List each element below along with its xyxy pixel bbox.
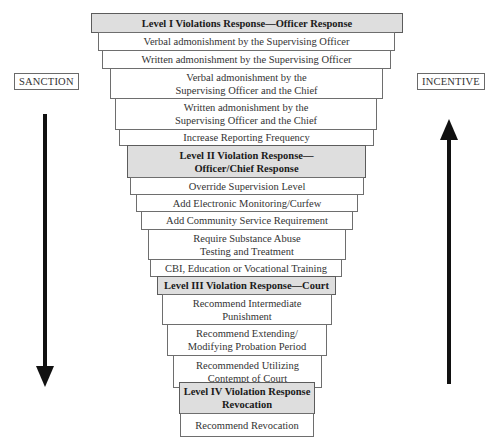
level-1-header: Level I Violations Response—Officer Resp…: [91, 13, 403, 33]
response-item-label: Add Community Service Requirement: [166, 214, 328, 227]
response-item-label: Written admonishment by the: [184, 101, 309, 114]
response-item-label: Supervising Officer and the Chief: [175, 84, 317, 97]
level-1-title: Level I Violations Response—Officer Resp…: [142, 17, 352, 30]
response-item-revocation: Recommend Revocation: [180, 413, 314, 437]
response-item-label: Recommended Utilizing: [196, 359, 299, 372]
level-2-subtitle: Officer/Chief Response: [194, 162, 298, 175]
response-item-reporting-frequency: Increase Reporting Frequency: [119, 129, 374, 146]
response-item-label: Require Substance Abuse: [193, 232, 300, 245]
level-4-title: Level IV Violation Response: [184, 385, 311, 398]
response-item-label: Verbal admonishment by the: [186, 71, 306, 84]
level-4-subtitle: Revocation: [222, 398, 272, 411]
response-item-label: Testing and Treatment: [200, 245, 294, 258]
response-item-label: Verbal admonishment by the Supervising O…: [144, 35, 350, 48]
arrow-shaft: [43, 114, 47, 368]
sanction-label: SANCTION: [14, 73, 79, 90]
response-item-substance-abuse: Require Substance Abuse Testing and Trea…: [148, 229, 346, 260]
response-item-label: Recommend Intermediate: [193, 297, 302, 310]
response-item-intermediate-punishment: Recommend Intermediate Punishment: [162, 294, 332, 325]
incentive-label: INCENTIVE: [417, 73, 485, 90]
response-item-label: Add Electronic Monitoring/Curfew: [173, 197, 322, 210]
level-4-header: Level IV Violation Response Revocation: [179, 382, 315, 414]
response-item-label: Punishment: [222, 310, 272, 323]
response-item-written-chief: Written admonishment by the Supervising …: [115, 98, 377, 130]
response-item-label: Written admonishment by the Supervising …: [141, 53, 351, 66]
response-item-verbal-officer: Verbal admonishment by the Supervising O…: [98, 32, 395, 51]
response-item-label: Supervising Officer and the Chief: [175, 114, 317, 127]
response-item-written-officer: Written admonishment by the Supervising …: [102, 50, 391, 69]
level-3-header: Level III Violation Response—Court: [157, 276, 336, 295]
response-item-label: Increase Reporting Frequency: [183, 131, 310, 144]
response-item-label: Recommend Extending/: [196, 327, 298, 340]
response-item-label: Override Supervision Level: [189, 180, 306, 193]
caption-fragment: [110, 0, 350, 3]
level-2-title: Level II Violation Response—: [180, 149, 314, 162]
response-item-cbi-training: CBI, Education or Vocational Training: [150, 259, 342, 277]
response-item-label: Modifying Probation Period: [188, 340, 306, 353]
level-3-title: Level III Violation Response—Court: [164, 279, 329, 292]
arrow-shaft: [447, 139, 451, 384]
response-item-extend-probation: Recommend Extending/ Modifying Probation…: [167, 324, 327, 356]
response-item-label: Recommend Revocation: [195, 419, 299, 432]
arrow-head-down: [36, 366, 54, 387]
arrow-head-up: [440, 119, 458, 140]
response-item-override-supervision: Override Supervision Level: [130, 177, 364, 195]
response-item-electronic-monitoring: Add Electronic Monitoring/Curfew: [136, 194, 358, 212]
response-item-community-service: Add Community Service Requirement: [141, 211, 353, 230]
response-item-label: CBI, Education or Vocational Training: [165, 262, 327, 275]
response-item-verbal-chief: Verbal admonishment by the Supervising O…: [110, 68, 383, 99]
level-2-header: Level II Violation Response— Officer/Chi…: [127, 145, 366, 178]
